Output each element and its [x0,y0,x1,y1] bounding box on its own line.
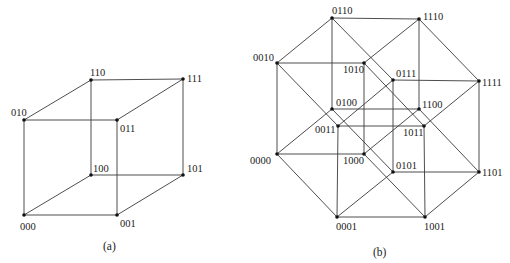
vertex-label-010: 010 [11,107,27,118]
vertex-011 [115,118,119,122]
edge-0001-0011 [337,126,338,217]
edge-1010-1110 [364,19,419,63]
vertex-label-101: 101 [187,163,203,174]
cube-vertices [22,77,185,217]
vertex-label-011: 011 [120,123,135,134]
vertex-label-110: 110 [90,67,105,78]
figure-4-cube: 0000000100100011010001010110011110001001… [250,5,503,259]
edge-1110-1111 [419,19,479,81]
edge-0110-1110 [332,18,419,19]
vertex-label-1011: 1011 [403,127,424,138]
edge-000-100 [24,175,91,215]
edge-1100-1101 [419,109,479,172]
edge-010-110 [24,80,91,120]
caption-a: (a) [103,240,116,253]
vertex-label-0000: 0000 [250,155,271,166]
edge-0010-0011 [277,63,338,126]
vertex-0111 [391,78,395,82]
edge-0001-0101 [337,172,393,217]
vertex-111 [181,77,185,81]
vertex-label-0011: 0011 [315,124,336,135]
cube-edges [24,79,183,215]
edge-011-111 [117,79,183,120]
vertex-0001 [335,215,339,219]
vertex-label-0001: 0001 [336,221,357,232]
vertex-label-0100: 0100 [336,97,357,108]
edge-0010-0110 [277,18,332,63]
vertex-label-1110: 1110 [423,11,443,22]
vertex-1101 [477,170,481,174]
vertex-0110 [330,16,334,20]
vertex-label-000: 000 [20,221,36,232]
vertex-label-1001: 1001 [424,221,445,232]
hypercube-diagram: 000001010011100101110111 (a) 00000001001… [0,0,510,263]
vertex-label-0010: 0010 [253,52,274,63]
vertex-001 [115,213,119,217]
vertex-010 [22,118,26,122]
vertex-label-001: 001 [120,218,136,229]
edge-1001-1101 [425,172,479,217]
tesseract-vertex-labels: 0000000100100011010001010110011110001001… [250,5,503,232]
vertex-110 [89,78,93,82]
tesseract-vertices [275,16,481,219]
vertex-000 [22,213,26,217]
vertex-1001 [423,215,427,219]
figure-3-cube: 000001010011100101110111 (a) [11,67,203,253]
cube-vertex-labels: 000001010011100101110111 [11,67,203,232]
vertex-label-1000: 1000 [343,155,364,166]
vertex-1100 [417,107,421,111]
edge-0000-0001 [277,154,337,217]
vertex-0010 [275,61,279,65]
tesseract-edges [277,18,479,217]
vertex-1110 [417,17,421,21]
vertex-label-111: 111 [187,73,202,84]
edge-0111-1111 [393,80,479,81]
vertex-label-1111: 1111 [482,77,502,88]
edge-001-101 [117,175,183,215]
vertex-label-0111: 0111 [396,68,416,79]
vertex-1111 [477,79,481,83]
vertex-0100 [330,107,334,111]
edge-1001-1011 [424,126,425,217]
vertex-0101 [391,170,395,174]
vertex-0000 [275,152,279,156]
caption-b: (b) [373,246,387,259]
edge-110-111 [91,79,183,80]
vertex-label-100: 100 [93,163,109,174]
vertex-label-0110: 0110 [332,5,353,16]
vertex-label-1101: 1101 [482,167,503,178]
vertex-101 [181,173,185,177]
vertex-0011 [336,124,340,128]
vertex-label-1100: 1100 [422,99,443,110]
vertex-label-0101: 0101 [396,160,417,171]
vertex-label-1010: 1010 [343,64,364,75]
